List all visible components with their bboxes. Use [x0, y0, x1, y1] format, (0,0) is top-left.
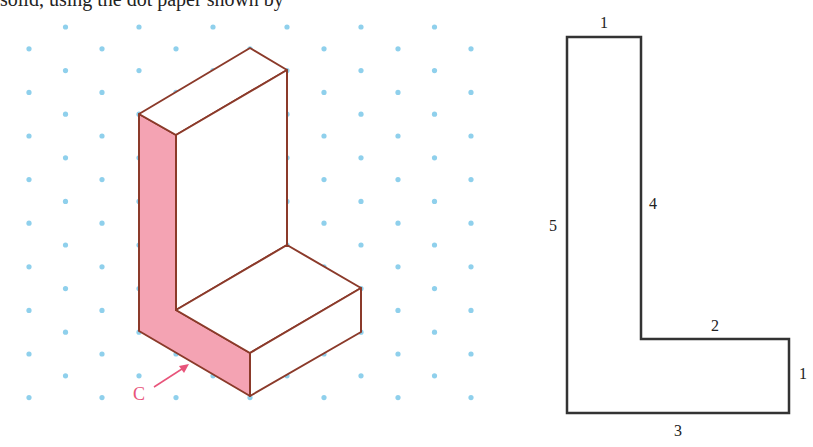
grid-dot — [26, 177, 31, 182]
grid-dot — [173, 395, 178, 400]
grid-dot — [173, 46, 178, 51]
grid-dot — [26, 264, 31, 269]
grid-dot — [26, 90, 31, 95]
grid-dot — [63, 373, 68, 378]
grid-dot — [99, 221, 104, 226]
grid-dot — [432, 112, 437, 117]
grid-dot — [26, 133, 31, 138]
grid-dot — [26, 308, 31, 313]
grid-dot — [395, 221, 400, 226]
grid-dot — [468, 90, 473, 95]
grid-dot — [395, 395, 400, 400]
grid-dot — [395, 46, 400, 51]
grid-dot — [26, 395, 31, 400]
grid-dot — [358, 373, 363, 378]
grid-dot — [99, 395, 104, 400]
grid-dot — [99, 351, 104, 356]
grid-dot — [468, 177, 473, 182]
label-left: 5 — [549, 217, 557, 234]
grid-dot — [63, 330, 68, 335]
grid-dot — [63, 286, 68, 291]
grid-dot — [63, 199, 68, 204]
grid-dot — [358, 24, 363, 29]
grid-dot — [432, 242, 437, 247]
grid-dot — [432, 155, 437, 160]
grid-dot — [358, 199, 363, 204]
label-bottom: 3 — [674, 422, 682, 439]
grid-dot — [468, 395, 473, 400]
grid-dot — [210, 24, 215, 29]
grid-dot — [432, 24, 437, 29]
grid-dot — [395, 133, 400, 138]
grid-dot — [468, 264, 473, 269]
grid-dot — [432, 286, 437, 291]
grid-dot — [321, 221, 326, 226]
grid-dot — [358, 68, 363, 73]
grid-dot — [395, 308, 400, 313]
grid-dot — [99, 90, 104, 95]
grid-dot — [432, 199, 437, 204]
grid-dot — [284, 24, 289, 29]
figure: C 1 5 4 2 1 3 — [0, 0, 813, 447]
grid-dot — [63, 24, 68, 29]
grid-dot — [99, 308, 104, 313]
grid-dot — [63, 242, 68, 247]
grid-dot — [99, 46, 104, 51]
label-step: 2 — [711, 317, 719, 334]
grid-dot — [468, 308, 473, 313]
label-inner-vertical: 4 — [649, 195, 657, 212]
grid-dot — [321, 177, 326, 182]
grid-dot — [395, 177, 400, 182]
grid-dot — [321, 90, 326, 95]
grid-dot — [63, 68, 68, 73]
label-c: C — [133, 384, 145, 404]
grid-dot — [321, 46, 326, 51]
grid-dot — [136, 24, 141, 29]
face-c-label: C — [133, 364, 189, 404]
grid-dot — [468, 221, 473, 226]
grid-dot — [99, 264, 104, 269]
grid-dot — [136, 68, 141, 73]
grid-dot — [468, 351, 473, 356]
grid-dot — [26, 351, 31, 356]
grid-dot — [395, 351, 400, 356]
grid-dot — [432, 68, 437, 73]
grid-dot — [99, 177, 104, 182]
grid-dot — [358, 112, 363, 117]
grid-dot — [99, 133, 104, 138]
front-view-outline: 1 5 4 2 1 3 — [549, 14, 807, 439]
grid-dot — [468, 133, 473, 138]
grid-dot — [26, 221, 31, 226]
grid-dot — [432, 330, 437, 335]
grid-dot — [136, 373, 141, 378]
isometric-l-solid — [139, 48, 361, 396]
grid-dot — [468, 46, 473, 51]
grid-dot — [432, 373, 437, 378]
label-top: 1 — [600, 14, 608, 31]
grid-dot — [63, 112, 68, 117]
grid-dot — [321, 395, 326, 400]
grid-dot — [26, 46, 31, 51]
grid-dot — [395, 90, 400, 95]
arrow-head-icon — [179, 364, 189, 373]
grid-dot — [358, 155, 363, 160]
grid-dot — [358, 242, 363, 247]
grid-dot — [63, 155, 68, 160]
grid-dot — [321, 133, 326, 138]
label-right: 1 — [799, 365, 807, 382]
grid-dot — [395, 264, 400, 269]
